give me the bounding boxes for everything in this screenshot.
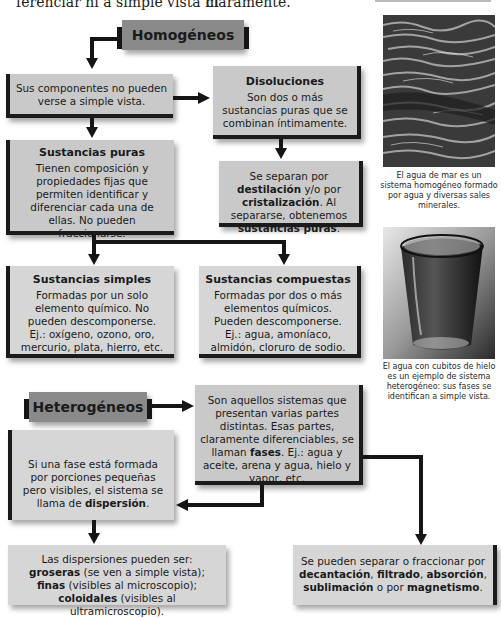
- text: y/o por: [301, 183, 341, 195]
- text: Se pueden separar o fraccionar por: [301, 555, 485, 567]
- arrow-down-icon: [88, 533, 100, 544]
- connector: [92, 240, 286, 244]
- connector: [419, 455, 423, 535]
- sustancias-compuestas-body: Formadas por dos o más elementos químico…: [199, 289, 357, 354]
- arrow-down-icon: [415, 534, 427, 545]
- keyword-dispersion: dispersión: [85, 497, 146, 509]
- sea-photo-caption: El agua de mar es un sistema homogéneo f…: [380, 171, 498, 211]
- no-visible-box: Sus componentes no pueden verse a simple…: [6, 74, 173, 118]
- separacion-heterogeneos-box: Se pueden separar o fraccionar por decan…: [293, 545, 497, 605]
- text: ,: [484, 568, 487, 580]
- tipos-dispersion-box: Las dispersiones pueden ser: groseras (s…: [8, 545, 226, 605]
- text: o por: [374, 581, 408, 593]
- disoluciones-body: Son dos o más sustancias puras que se co…: [213, 91, 357, 130]
- sustancias-puras-box: Sustancias puras Tienen composición y pr…: [6, 140, 174, 235]
- sustancias-compuestas-title: Sustancias compuestas: [199, 273, 357, 286]
- sea-water-photo: [383, 15, 495, 167]
- keyword-filtrado: filtrado: [377, 568, 420, 580]
- homogeneos-header: Homogéneos: [122, 20, 244, 50]
- body-text-fragment-left: ferenciar ni a simple vista ni: [16, 0, 219, 10]
- connector: [152, 404, 182, 408]
- header-bar-right: [147, 399, 152, 419]
- text: .: [337, 222, 340, 234]
- keyword-coloidales: coloidales: [58, 592, 117, 604]
- arrow-left-icon: [176, 499, 188, 511]
- sustancias-simples-box: Sustancias simples Formadas por un solo …: [6, 266, 174, 358]
- disoluciones-title: Disoluciones: [213, 75, 357, 88]
- glass-of-water-photo: [383, 227, 495, 359]
- text: ,: [370, 568, 377, 580]
- text: .: [479, 581, 482, 593]
- text: .: [146, 497, 149, 509]
- keyword-absorcion: absorción: [427, 568, 484, 580]
- keyword-finas: finas: [37, 579, 65, 591]
- arrow-down-icon: [278, 254, 290, 265]
- connector: [186, 503, 264, 507]
- text: (se ven a simple vista);: [80, 566, 205, 578]
- arrow-down-icon: [86, 58, 98, 69]
- header-bar-right: [244, 27, 249, 49]
- disoluciones-box: Disoluciones Son dos o más sustancias pu…: [213, 66, 361, 139]
- text: Las dispersiones pueden ser:: [41, 553, 192, 565]
- keyword-decantacion: decantación: [299, 568, 370, 580]
- keyword-destilacion: destilación: [237, 183, 301, 195]
- heterogeneos-header: Heterogéneos: [29, 392, 147, 422]
- sustancias-simples-body: Formadas por un solo elemento químico. N…: [10, 289, 174, 354]
- keyword-cristalizacion: cristalización: [242, 196, 319, 208]
- keyword-magnetismo: magnetismo: [407, 581, 479, 593]
- arrow-right-icon: [182, 400, 194, 412]
- sustancias-simples-title: Sustancias simples: [10, 273, 174, 286]
- heterogeneos-definicion-box: Son aquellos sistemas que presentan vari…: [195, 385, 363, 485]
- arrow-down-icon: [86, 127, 98, 138]
- sustancias-puras-body: Tienen composición y propiedades fijas q…: [10, 162, 174, 240]
- body-text-fragment-right: claramente.: [206, 0, 291, 10]
- arrow-down-icon: [88, 254, 100, 265]
- connector: [92, 520, 96, 534]
- destilacion-box: Se separan por destilación y/o por crist…: [219, 161, 363, 227]
- text: (visibles al microscopio);: [65, 579, 197, 591]
- connector: [90, 37, 94, 59]
- keyword-sustancias-puras: sustancias puras: [238, 222, 337, 234]
- arrow-right-icon: [198, 92, 210, 104]
- keyword-sublimacion: sublimación: [303, 581, 373, 593]
- connector: [363, 455, 419, 459]
- connector: [282, 240, 286, 255]
- connector: [92, 235, 96, 255]
- connector: [90, 37, 120, 41]
- keyword-groseras: groseras: [29, 566, 80, 578]
- sustancias-puras-title: Sustancias puras: [10, 146, 174, 159]
- arrow-down-icon: [275, 148, 287, 159]
- caption-rule: [375, 0, 491, 2]
- text: Se separan por: [250, 170, 329, 182]
- keyword-fases: fases: [250, 446, 281, 458]
- sustancias-compuestas-box: Sustancias compuestas Formadas por dos o…: [199, 266, 361, 358]
- dispersion-box: Si una fase está formada por porciones p…: [8, 430, 174, 520]
- text: ,: [420, 568, 427, 580]
- connector: [173, 96, 198, 100]
- glass-photo-caption: El agua con cubitos de hielo es un ejemp…: [380, 362, 498, 402]
